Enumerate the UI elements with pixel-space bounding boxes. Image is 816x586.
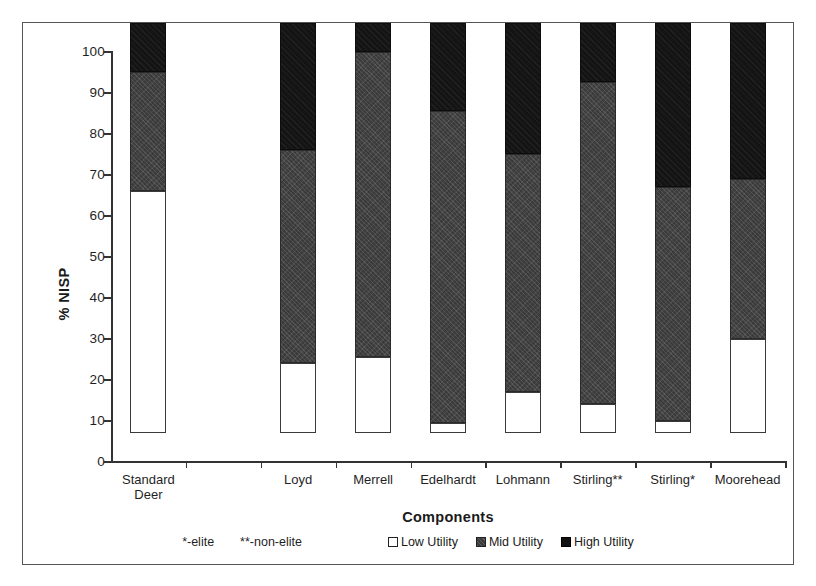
y-tick-label: 70 xyxy=(90,167,105,182)
legend-item-mid-utility[interactable]: Mid Utility xyxy=(476,535,543,549)
bar-segment-mid-utility[interactable] xyxy=(355,52,391,357)
y-tick-label: 10 xyxy=(90,413,105,428)
bar-segment-high-utility[interactable] xyxy=(655,23,691,187)
legend-label: Mid Utility xyxy=(489,535,543,549)
bar-segment-high-utility[interactable] xyxy=(130,23,166,72)
legend-swatch-mid-icon xyxy=(476,537,486,547)
x-label-moorehead: Moorehead xyxy=(702,472,793,487)
bar-segment-low-utility[interactable] xyxy=(730,339,766,433)
x-tick-mark xyxy=(186,461,188,468)
x-tick-mark xyxy=(336,461,338,468)
x-tick-mark xyxy=(785,461,787,468)
legend-entries: Low UtilityMid UtilityHigh Utility xyxy=(388,535,634,549)
y-tick-mark xyxy=(104,174,111,176)
y-tick-label: 80 xyxy=(90,126,105,141)
bar-segment-mid-utility[interactable] xyxy=(430,111,466,423)
y-tick-mark xyxy=(104,256,111,258)
y-tick-mark xyxy=(104,379,111,381)
y-tick-mark xyxy=(104,215,111,217)
y-tick-label: 40 xyxy=(90,290,105,305)
y-tick-label: 50 xyxy=(90,249,105,264)
x-tick-mark xyxy=(635,461,637,468)
y-tick-mark xyxy=(104,420,111,422)
y-tick-label: 60 xyxy=(90,208,105,223)
bar-segment-low-utility[interactable] xyxy=(655,421,691,433)
y-axis-title: % NISP xyxy=(56,267,72,320)
bar-segment-low-utility[interactable] xyxy=(505,392,541,433)
y-tick-label: 20 xyxy=(90,372,105,387)
x-axis-title: Components xyxy=(111,509,785,525)
bar-segment-mid-utility[interactable] xyxy=(280,150,316,363)
legend-label: Low Utility xyxy=(401,535,458,549)
y-tick-mark xyxy=(104,92,111,94)
bar-segment-mid-utility[interactable] xyxy=(505,154,541,392)
bar-segment-mid-utility[interactable] xyxy=(655,187,691,421)
bar-segment-mid-utility[interactable] xyxy=(730,179,766,339)
y-tick-label: 30 xyxy=(90,331,105,346)
bar-segment-low-utility[interactable] xyxy=(130,191,166,433)
bar-segment-low-utility[interactable] xyxy=(430,423,466,433)
y-tick-label: 0 xyxy=(97,454,105,469)
bar-segment-high-utility[interactable] xyxy=(280,23,316,150)
chart-legend: *-elite **-non-elite Low UtilityMid Util… xyxy=(23,535,793,549)
bar-segment-low-utility[interactable] xyxy=(280,363,316,433)
bar-segment-mid-utility[interactable] xyxy=(580,82,616,404)
bar-segment-low-utility[interactable] xyxy=(355,357,391,433)
legend-item-low-utility[interactable]: Low Utility xyxy=(388,535,458,549)
legend-item-high-utility[interactable]: High Utility xyxy=(561,535,634,549)
bar-segment-high-utility[interactable] xyxy=(355,23,391,52)
bar-segment-mid-utility[interactable] xyxy=(130,72,166,191)
x-tick-mark xyxy=(411,461,413,468)
bar-segment-high-utility[interactable] xyxy=(580,23,616,82)
y-tick-mark xyxy=(104,51,111,53)
bar-segment-low-utility[interactable] xyxy=(580,404,616,433)
y-tick-mark xyxy=(104,133,111,135)
bar-segment-high-utility[interactable] xyxy=(505,23,541,154)
legend-swatch-low-icon xyxy=(388,537,398,547)
legend-swatch-high-icon xyxy=(561,537,571,547)
y-tick-mark xyxy=(104,297,111,299)
x-tick-mark xyxy=(261,461,263,468)
chart-figure: % NISP 1009080706050403020100 Standard D… xyxy=(22,22,794,565)
legend-note-non-elite: **-non-elite xyxy=(240,535,302,549)
y-tick-mark xyxy=(104,461,111,463)
x-label-standard-deer: Standard Deer xyxy=(103,472,194,502)
bar-segment-high-utility[interactable] xyxy=(430,23,466,111)
y-tick-mark xyxy=(104,338,111,340)
legend-label: High Utility xyxy=(574,535,634,549)
bar-segment-high-utility[interactable] xyxy=(730,23,766,179)
x-tick-mark xyxy=(710,461,712,468)
x-tick-mark xyxy=(485,461,487,468)
x-tick-mark xyxy=(560,461,562,468)
y-tick-label: 100 xyxy=(82,44,105,59)
legend-note-elite: *-elite xyxy=(182,535,214,549)
y-tick-label: 90 xyxy=(90,85,105,100)
